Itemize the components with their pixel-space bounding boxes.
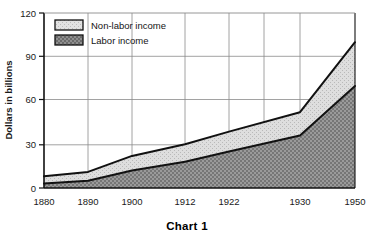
y-tick-label-60: 60 xyxy=(25,94,36,105)
y-tick-label-0: 0 xyxy=(31,183,36,194)
area-chart: 120 90 60 30 0 Dollars in billions 1880 … xyxy=(0,0,374,241)
x-tick-label-1890: 1890 xyxy=(77,196,98,207)
x-tick-label-1880: 1880 xyxy=(33,196,54,207)
legend-label-non-labor-income: Non-labor income xyxy=(91,20,166,31)
x-tick-label-1930: 1930 xyxy=(289,196,310,207)
chart-container: 120 90 60 30 0 Dollars in billions 1880 … xyxy=(0,0,374,241)
legend-swatch-non-labor-income xyxy=(55,20,83,30)
y-tick-label-90: 90 xyxy=(25,51,36,62)
x-tick-label-1922: 1922 xyxy=(218,196,239,207)
x-tick-label-1912: 1912 xyxy=(174,196,195,207)
y-tick-label-30: 30 xyxy=(25,139,36,150)
chart-caption: Chart 1 xyxy=(166,220,208,232)
y-axis-title: Dollars in billions xyxy=(3,60,14,139)
x-tick-label-1900: 1900 xyxy=(121,196,142,207)
legend-label-labor-income: Labor income xyxy=(91,35,149,46)
x-tick-label-1950: 1950 xyxy=(344,196,365,207)
y-tick-label-120: 120 xyxy=(20,8,36,19)
legend-swatch-labor-income xyxy=(55,35,83,45)
